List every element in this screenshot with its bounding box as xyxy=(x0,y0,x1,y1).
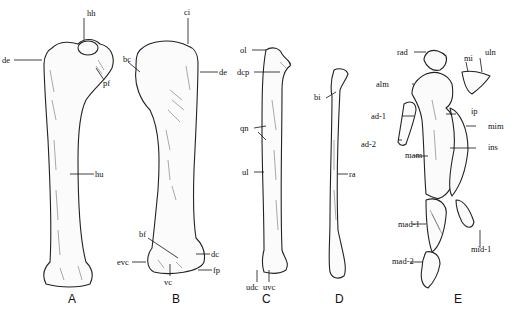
panel-label-d: D xyxy=(335,293,344,305)
label-uln: uln xyxy=(485,48,496,57)
label-pf: pf xyxy=(103,79,110,88)
panel-a-humerus-drawing xyxy=(14,18,113,287)
label-uvc: uvc xyxy=(263,283,275,292)
label-mam: mam xyxy=(405,151,422,160)
label-hh: hh xyxy=(87,9,96,18)
label-qn: qn xyxy=(240,124,249,133)
bone-drawings xyxy=(0,0,521,322)
label-ra: ra xyxy=(349,170,356,179)
label-udc: udc xyxy=(246,283,258,292)
label-ins: ins xyxy=(488,143,498,152)
label-mim: mim xyxy=(488,122,504,131)
label-bc: bc xyxy=(123,55,131,64)
label-mid-1: mid-1 xyxy=(471,245,491,254)
label-fp: fp xyxy=(213,266,220,275)
label-mi: mi xyxy=(464,54,473,63)
label-de-b: de xyxy=(219,68,227,77)
label-bf: bf xyxy=(139,230,146,239)
label-ci: ci xyxy=(184,8,190,17)
label-ad-1: ad-1 xyxy=(371,112,386,121)
panel-c-ulna-drawing xyxy=(252,48,290,282)
panel-label-c: C xyxy=(262,293,271,305)
label-alm: alm xyxy=(376,80,389,89)
label-dc: dc xyxy=(211,250,219,259)
label-de-a: de xyxy=(2,56,10,65)
panel-label-a: A xyxy=(68,293,76,305)
label-rad: rad xyxy=(397,48,408,57)
anatomical-figure: hh de pf hu A ci bc de bf dc evc fp vc B… xyxy=(0,0,521,322)
label-evc: evc xyxy=(117,258,129,267)
label-dcp: dcp xyxy=(237,68,249,77)
label-ip: ip xyxy=(471,107,478,116)
label-hu: hu xyxy=(95,170,104,179)
label-ad-2: ad-2 xyxy=(361,140,376,149)
panel-d-radius-drawing xyxy=(326,69,348,278)
panel-label-e: E xyxy=(454,293,462,305)
label-ol: ol xyxy=(240,46,247,55)
panel-label-b: B xyxy=(172,293,180,305)
label-bi: bi xyxy=(314,93,321,102)
label-ul: ul xyxy=(242,168,249,177)
label-mad-1: mad-1 xyxy=(398,220,420,229)
label-vc: vc xyxy=(164,278,172,287)
label-mad-2: mad-2 xyxy=(392,257,414,266)
